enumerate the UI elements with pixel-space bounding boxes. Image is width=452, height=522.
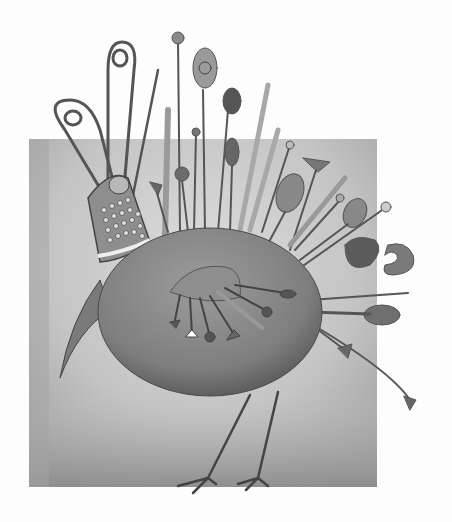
pincushion-bird-illustration — [0, 0, 452, 522]
bird-body — [98, 228, 322, 396]
